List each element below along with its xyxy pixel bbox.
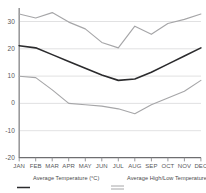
- legend-label-high-low: Average High/Low Temperature (°C): [127, 175, 206, 181]
- x-tick-jun: JUN: [93, 163, 111, 169]
- gridlines: [19, 22, 201, 131]
- y-tick-minus10: -10: [1, 127, 15, 134]
- x-tick-dec: DEC: [192, 163, 206, 169]
- x-tick-aug: AUG: [126, 163, 144, 169]
- x-tick-jul: JUL: [109, 163, 127, 169]
- y-tick-30: 30: [1, 18, 15, 25]
- x-tick-oct: OCT: [159, 163, 177, 169]
- legend-item-average: Average Temperature (°C): [17, 173, 99, 183]
- y-tick-10: 10: [1, 72, 15, 79]
- x-tick-apr: APR: [60, 163, 78, 169]
- legend-label-average: Average Temperature (°C): [33, 175, 99, 181]
- series-line-low: [19, 76, 201, 113]
- legend-swatch-high-low-line: [111, 176, 124, 181]
- series-line-average: [19, 46, 201, 81]
- chart-legend: Average Temperature (°C) Average High/Lo…: [0, 172, 206, 188]
- y-tick-0: 0: [1, 99, 15, 106]
- temperature-chart: 30 20 10 0 -10 -20 JAN FEB MAR APR MAY J…: [0, 0, 206, 193]
- series-line-high: [19, 13, 201, 48]
- y-tick-minus20: -20: [1, 154, 15, 161]
- x-tick-nov: NOV: [175, 163, 193, 169]
- x-tick-jan: JAN: [10, 163, 28, 169]
- x-tick-feb: FEB: [27, 163, 45, 169]
- x-tick-mar: MAR: [43, 163, 61, 169]
- legend-swatch-average-line: [17, 176, 30, 181]
- x-tick-sep: SEP: [142, 163, 160, 169]
- x-tick-may: MAY: [76, 163, 94, 169]
- y-tick-20: 20: [1, 45, 15, 52]
- legend-item-high-low: Average High/Low Temperature (°C): [111, 173, 206, 183]
